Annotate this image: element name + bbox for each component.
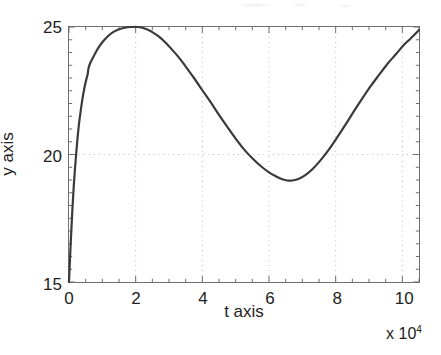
x-axis-exponent: x 104 xyxy=(386,325,422,343)
x-tick-label-6: 6 xyxy=(265,290,274,307)
x-tick-label-8: 8 xyxy=(332,290,341,307)
x-tick-label-10: 10 xyxy=(395,290,414,307)
exponent-power: 4 xyxy=(416,324,422,335)
grid-lines xyxy=(69,27,419,282)
x-tick-label-2: 2 xyxy=(131,290,140,307)
plot-svg xyxy=(69,27,419,282)
x-tick-label-4: 4 xyxy=(198,290,207,307)
y-axis-title: y axis xyxy=(0,132,18,175)
plot-area: 25 20 15 0 2 4 6 8 10 xyxy=(68,26,420,283)
x-axis-title: t axis xyxy=(224,302,264,322)
scan-noise-artifact xyxy=(0,0,441,14)
figure-canvas: 25 20 15 0 2 4 6 8 10 y axis t axis x 10… xyxy=(0,0,441,355)
y-tick-label-25: 25 xyxy=(43,19,62,36)
exponent-prefix: x 10 xyxy=(386,325,416,342)
y-tick-label-20: 20 xyxy=(43,147,62,164)
y-tick-label-15: 15 xyxy=(43,276,62,293)
x-tick-label-0: 0 xyxy=(64,290,73,307)
